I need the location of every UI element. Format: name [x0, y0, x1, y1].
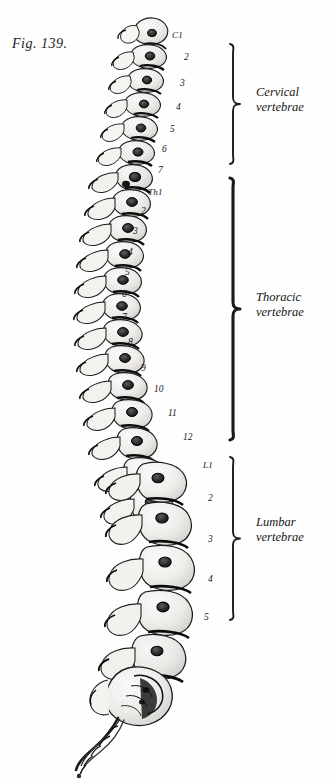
cervical-vertebra-label-6: 6 [162, 145, 167, 155]
lumbar-vertebra-label-5: 5 [204, 613, 209, 623]
cervical-vertebra-label-c1: C1 [172, 31, 183, 40]
cervical-vertebra-label-7: 7 [158, 166, 163, 176]
thoracic-vertebra-label-11: 11 [168, 409, 177, 419]
thoracic-vertebra-label-9: 9 [141, 364, 146, 374]
lumbar-vertebra-label-4: 4 [208, 575, 213, 585]
lumbar-group-label-line2: vertebrae [256, 530, 304, 545]
thoracic-group-label-line1: Thoracic [256, 290, 304, 305]
thoracic-vertebra-label-3: 3 [133, 227, 138, 237]
cervical-vertebra-label-3: 3 [180, 79, 185, 89]
spine-figure: Fig. 139. C1234567 Th123456789101112 L12… [0, 0, 332, 783]
figure-caption: Fig. 139. [12, 36, 67, 52]
thoracic-vertebra-label-6: 6 [122, 290, 127, 300]
lumbar-vertebra-label-3: 3 [208, 535, 213, 545]
cervical-segment-art [89, 18, 168, 193]
thoracic-vertebra-label-4: 4 [128, 248, 133, 258]
thoracic-group-label-line2: vertebrae [256, 305, 304, 320]
lumbar-group-label-line1: Lumbar [256, 515, 304, 530]
lumbar-vertebra-label-2: 2 [208, 494, 213, 504]
thoracic-vertebra-label-th1: Th1 [148, 188, 163, 197]
cervical-vertebra-label-2: 2 [184, 53, 189, 63]
lumbar-vertebra-label-l1: L1 [203, 461, 213, 470]
cervical-group-label-line1: Cervical [256, 85, 304, 100]
thoracic-vertebra-label-10: 10 [154, 385, 164, 395]
thoracic-vertebra-label-5: 5 [125, 268, 130, 278]
thoracic-brace [228, 176, 244, 442]
cervical-brace [228, 42, 244, 166]
thoracic-group-label: Thoracicvertebrae [256, 290, 304, 321]
thoracic-vertebra-label-2: 2 [141, 207, 146, 217]
thoracic-vertebra-label-8: 8 [128, 338, 133, 348]
thoracic-vertebra-label-12: 12 [183, 433, 193, 443]
cervical-group-label-line2: vertebrae [256, 100, 304, 115]
coccyx-art [76, 718, 124, 778]
sacrum-art [90, 667, 172, 726]
lumbar-group-label: Lumbarvertebrae [256, 515, 304, 546]
cervical-vertebra-label-5: 5 [170, 125, 175, 135]
lumbar-brace [228, 455, 244, 622]
cervical-vertebra-label-4: 4 [176, 103, 181, 113]
vertebral-column-illustration [0, 0, 332, 783]
cervical-group-label: Cervicalvertebrae [256, 85, 304, 116]
lumbar-segment-art [99, 462, 195, 682]
thoracic-vertebra-label-7: 7 [122, 313, 127, 323]
thoracic-segment-art [74, 190, 173, 525]
